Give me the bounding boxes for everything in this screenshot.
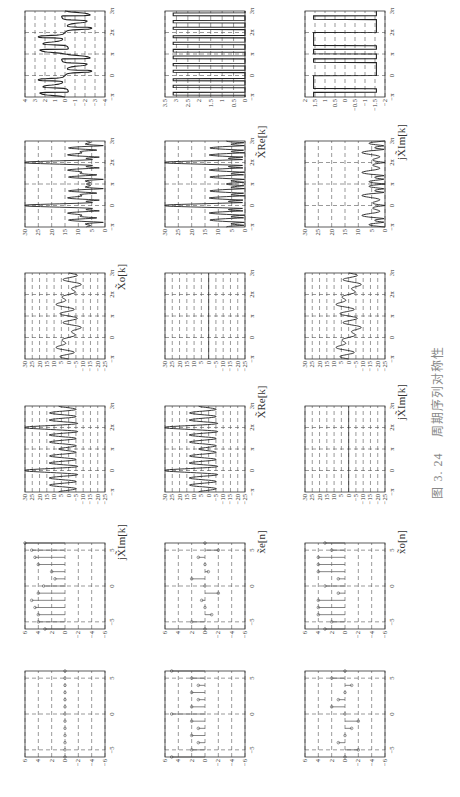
svg-text:15: 15 xyxy=(323,361,330,368)
svg-text:15: 15 xyxy=(43,494,50,501)
svg-text:−5: −5 xyxy=(212,361,219,368)
axis-label-row3-mag: jX̃Im[k] xyxy=(395,124,407,160)
svg-text:−25: −25 xyxy=(381,361,388,371)
svg-text:15: 15 xyxy=(61,229,68,236)
svg-text:2: 2 xyxy=(188,759,195,762)
svg-text:−π: −π xyxy=(388,93,395,101)
svg-text:1: 1 xyxy=(218,99,225,102)
svg-text:3: 3 xyxy=(172,99,179,102)
svg-text:6: 6 xyxy=(301,630,308,634)
svg-text:30: 30 xyxy=(21,361,28,368)
plot-r1c3: 302520151050−5−10−15−20−25−π0π2π3π xyxy=(25,406,117,492)
svg-text:2π: 2π xyxy=(248,424,255,431)
svg-text:0: 0 xyxy=(341,759,348,762)
svg-text:−4: −4 xyxy=(228,630,235,638)
svg-text:3π: 3π xyxy=(248,137,255,144)
svg-text:−π: −π xyxy=(388,355,395,363)
svg-text:5: 5 xyxy=(197,361,204,364)
svg-text:20: 20 xyxy=(316,361,323,368)
svg-text:−4: −4 xyxy=(88,758,95,766)
axis-label-row2-spectrum: X̃Re[k] xyxy=(255,386,267,419)
svg-text:1.5: 1.5 xyxy=(311,99,318,107)
svg-text:−15: −15 xyxy=(226,361,233,371)
plot-r1c4: 302520151050−5−10−15−20−25−π0π2π3π xyxy=(25,273,117,359)
svg-text:3π: 3π xyxy=(388,7,395,14)
svg-text:0: 0 xyxy=(345,494,352,497)
svg-text:−π: −π xyxy=(248,93,255,101)
svg-text:1: 1 xyxy=(51,99,58,102)
svg-text:15: 15 xyxy=(43,361,50,368)
svg-text:−5: −5 xyxy=(108,746,115,753)
axis-label-row1-spectrum: X̃o[k] xyxy=(115,264,127,290)
svg-text:−6: −6 xyxy=(381,758,388,766)
svg-text:10: 10 xyxy=(50,361,57,368)
svg-text:2π: 2π xyxy=(388,159,395,166)
svg-text:5: 5 xyxy=(248,677,255,680)
svg-text:π: π xyxy=(248,52,255,56)
svg-text:5: 5 xyxy=(337,361,344,364)
svg-text:0: 0 xyxy=(248,74,255,77)
svg-text:−6: −6 xyxy=(241,758,248,766)
svg-text:−5: −5 xyxy=(388,618,395,625)
svg-text:5: 5 xyxy=(197,494,204,497)
svg-text:−5: −5 xyxy=(388,746,395,753)
plot-r1c6: 43210−1−2−3−4−π0π2π3π xyxy=(25,11,117,97)
svg-text:−20: −20 xyxy=(374,361,381,371)
svg-text:π: π xyxy=(108,52,115,56)
rotated-figure-page: 6420−2−4−6−5056420−2−4−6−505302520151050… xyxy=(0,0,460,797)
axis-label-row3-stem: x̃o[n] xyxy=(395,530,407,554)
svg-text:25: 25 xyxy=(28,494,35,501)
svg-text:30: 30 xyxy=(301,229,308,236)
svg-text:2π: 2π xyxy=(248,291,255,298)
svg-text:−25: −25 xyxy=(241,361,248,371)
svg-text:−5: −5 xyxy=(72,361,79,368)
svg-text:0: 0 xyxy=(345,361,352,364)
svg-text:−2: −2 xyxy=(74,631,81,638)
svg-text:0: 0 xyxy=(248,469,255,472)
svg-text:−2: −2 xyxy=(354,631,361,638)
svg-text:−1: −1 xyxy=(71,99,78,106)
svg-text:−15: −15 xyxy=(366,494,373,504)
plot-r2c2: 6420−2−4−6−505 xyxy=(165,543,257,629)
svg-text:−6: −6 xyxy=(101,630,108,638)
svg-text:20: 20 xyxy=(328,229,335,236)
plot-r3c5: 302520151050−π0π2π3π xyxy=(305,141,397,227)
svg-text:−10: −10 xyxy=(359,361,366,371)
svg-text:π: π xyxy=(248,447,255,451)
svg-text:2: 2 xyxy=(188,631,195,634)
plot-r1c2: 6420−2−4−6−505 xyxy=(25,543,117,629)
svg-text:π: π xyxy=(108,447,115,451)
svg-text:0: 0 xyxy=(108,469,115,472)
svg-text:3π: 3π xyxy=(108,7,115,14)
svg-text:π: π xyxy=(388,314,395,318)
svg-text:25: 25 xyxy=(34,229,41,236)
svg-text:−6: −6 xyxy=(241,630,248,638)
svg-text:0: 0 xyxy=(388,74,395,77)
svg-text:0.5: 0.5 xyxy=(331,99,338,107)
svg-text:−π: −π xyxy=(388,488,395,496)
plot-r3c2: 6420−2−4−6−505 xyxy=(305,543,397,629)
svg-text:π: π xyxy=(108,314,115,318)
svg-text:0: 0 xyxy=(65,494,72,497)
svg-text:20: 20 xyxy=(36,361,43,368)
svg-text:−25: −25 xyxy=(241,494,248,504)
svg-text:−20: −20 xyxy=(94,361,101,371)
svg-text:−4: −4 xyxy=(228,758,235,766)
svg-text:−0.5: −0.5 xyxy=(351,99,358,111)
svg-text:−1.5: −1.5 xyxy=(371,99,378,111)
plot-r2c3: 302520151050−5−10−15−20−25−π0π2π3π xyxy=(165,406,257,492)
caption-number: 图 3. 24 xyxy=(431,453,445,499)
svg-text:−π: −π xyxy=(108,488,115,496)
svg-text:0: 0 xyxy=(108,336,115,339)
svg-text:−π: −π xyxy=(248,355,255,363)
svg-text:−20: −20 xyxy=(234,361,241,371)
svg-text:π: π xyxy=(388,52,395,56)
svg-text:−4: −4 xyxy=(368,630,375,638)
svg-text:0: 0 xyxy=(241,229,248,232)
svg-text:−2: −2 xyxy=(354,759,361,766)
svg-text:0: 0 xyxy=(241,99,248,102)
svg-text:5: 5 xyxy=(57,361,64,364)
svg-text:−10: −10 xyxy=(79,494,86,504)
svg-text:5: 5 xyxy=(88,229,95,232)
plot-r2c5: 302520151050−π0π2π3π xyxy=(165,141,257,227)
